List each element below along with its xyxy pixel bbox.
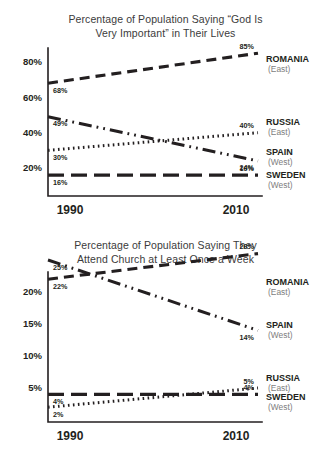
series-line-romania: [48, 53, 258, 83]
series-label-romania: ROMANIA: [266, 277, 309, 287]
chart-god-important: Percentage of Population Saying “God Is …: [0, 0, 331, 228]
series-region-russia: (East): [268, 127, 291, 137]
y-axis-tick-label: 20%: [23, 162, 43, 173]
series-line-russia: [48, 388, 258, 407]
series-label-sweden: SWEDEN: [266, 170, 306, 180]
data-label-end-sweden: 4%: [244, 383, 255, 392]
data-label-start-romania: 22%: [53, 282, 68, 291]
data-label-start-spain: 25%: [53, 263, 68, 272]
y-axis-tick-label: 80%: [23, 56, 43, 67]
series-region-sweden: (West): [268, 402, 293, 412]
x-axis-tick-label: 2010: [223, 203, 250, 217]
data-label-end-sweden: 16%: [240, 164, 255, 173]
series-label-spain: SPAIN: [266, 147, 293, 157]
data-label-end-romania: 85%: [240, 42, 255, 51]
chart-axes: [48, 272, 262, 422]
y-axis-tick-label: 5%: [28, 382, 42, 393]
data-label-start-russia: 30%: [53, 153, 68, 162]
data-label-start-romania: 68%: [53, 86, 68, 95]
y-axis-tick-label: 15%: [23, 318, 43, 329]
series-label-spain: SPAIN: [266, 320, 293, 330]
series-label-romania: ROMANIA: [266, 54, 309, 64]
plot-area-god-important: 20%40%60%80%1990201068%85%ROMANIA(East)3…: [0, 0, 331, 228]
data-label-start-sweden: 4%: [53, 397, 64, 406]
series-region-romania: (East): [268, 64, 291, 74]
series-label-russia: RUSSIA: [266, 117, 301, 127]
y-axis-tick-label: 10%: [23, 350, 43, 361]
y-axis-tick-label: 60%: [23, 92, 43, 103]
data-label-start-spain: 49%: [53, 119, 68, 128]
data-label-end-russia: 40%: [240, 121, 255, 130]
series-label-russia: RUSSIA: [266, 373, 301, 383]
series-region-spain: (West): [268, 157, 293, 167]
chart-church-attendance: Percentage of Population Saying They Att…: [0, 228, 331, 460]
data-label-start-russia: 2%: [53, 410, 64, 419]
x-axis-tick-label: 1990: [57, 429, 84, 443]
x-axis-tick-label: 1990: [57, 203, 84, 217]
plot-area-church-attendance: 5%10%15%20%1990201022%26%ROMANIA(East)25…: [0, 228, 331, 460]
data-label-end-spain: 14%: [240, 333, 255, 342]
series-region-sweden: (West): [268, 180, 293, 190]
series-label-sweden: SWEDEN: [266, 392, 306, 402]
series-region-romania: (East): [268, 287, 291, 297]
series-line-spain: [48, 117, 258, 161]
data-label-start-sweden: 16%: [53, 178, 68, 187]
series-line-russia: [48, 133, 258, 151]
y-axis-tick-label: 20%: [23, 286, 43, 297]
x-axis-tick-label: 2010: [223, 429, 250, 443]
series-region-spain: (West): [268, 330, 293, 340]
y-axis-tick-label: 40%: [23, 127, 43, 138]
series-line-romania: [48, 254, 258, 280]
data-label-end-romania: 26%: [240, 242, 255, 251]
series-line-spain: [48, 260, 258, 330]
